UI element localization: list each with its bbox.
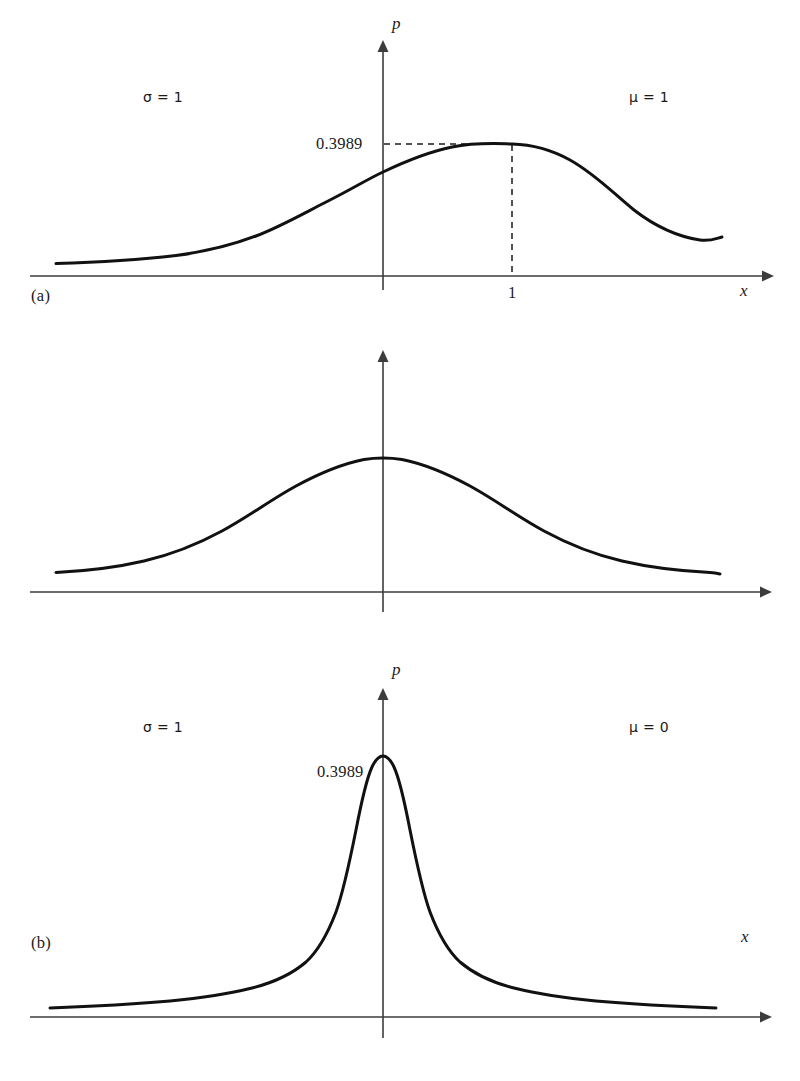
panel-b: σ = 1 μ = 0 0.3989 p x (b) [0,330,800,640]
panel-tag-a: (a) [31,286,50,306]
panel-c: σ = 0.5 μ = 0 0.7979 δσ(x) p x (c) [0,640,800,1081]
figure-root: σ = 1 μ = 1 0.3989 1 p x (a) σ = 1 μ = 0… [0,0,800,1081]
gaussian-curve-b [56,458,720,574]
panel-a: σ = 1 μ = 1 0.3989 1 p x (a) [0,0,800,330]
panel-c-plot [0,640,800,1081]
mu-label-a: μ = 1 [629,89,669,105]
x-tick-label-1-a: 1 [508,283,516,303]
sigma-label-a: σ = 1 [143,89,183,105]
y-axis-arrowhead-a [378,40,389,52]
panel-b-plot [0,330,800,640]
panel-a-plot [0,0,800,330]
y-axis-arrowhead-c [378,688,389,700]
gaussian-curve-a [56,143,722,263]
peak-value-label-a: 0.3989 [316,134,363,154]
x-axis-arrowhead-a [762,271,774,282]
x-axis-arrowhead-c [760,1012,772,1023]
y-axis-label-a: p [392,14,401,34]
y-axis-arrowhead-b [378,350,389,362]
x-axis-label-a: x [740,281,748,301]
x-axis-arrowhead-b [760,587,772,598]
